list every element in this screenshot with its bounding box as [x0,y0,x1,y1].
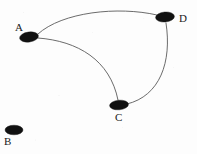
node-layer [5,11,175,135]
graph-svg [0,0,197,154]
edge-a-d [38,11,157,34]
edge-layer [38,11,167,104]
node-label-a: A [15,22,23,33]
node-label-d: D [179,13,187,24]
edge-a-c [38,38,118,100]
node-label-b: B [4,136,11,147]
node-b[interactable] [5,125,23,135]
node-label-c: C [115,112,122,123]
edge-c-d [127,23,167,104]
node-c[interactable] [109,99,129,110]
graph-figure: A B C D [0,0,197,154]
node-d[interactable] [155,11,175,23]
